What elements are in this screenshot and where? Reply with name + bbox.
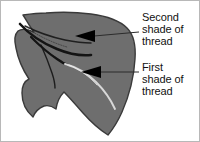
label-first-shade-line-3: thread	[142, 86, 183, 98]
label-second-shade-line-2: shade of	[142, 24, 183, 36]
figure-container: Second shade of thread First shade of th…	[0, 0, 200, 142]
label-first-shade: First shade of thread	[142, 62, 183, 97]
leaf-shape-group	[15, 12, 135, 135]
label-second-shade-line-3: thread	[142, 36, 183, 48]
label-second-shade: Second shade of thread	[142, 12, 183, 47]
leaf-body	[15, 12, 135, 135]
label-first-shade-line-2: shade of	[142, 74, 183, 86]
